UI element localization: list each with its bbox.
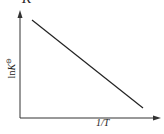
top-label: K bbox=[22, 0, 31, 7]
x-axis-arrow-icon bbox=[153, 116, 161, 121]
x-axis-label: 1/T bbox=[96, 117, 109, 128]
data-line bbox=[32, 20, 143, 108]
y-axis-arrow-icon bbox=[18, 10, 23, 18]
y-axis-label: lnK⊖ bbox=[5, 53, 17, 83]
chart-container: K lnK⊖ 1/T bbox=[0, 0, 164, 134]
chart-svg bbox=[0, 0, 164, 134]
